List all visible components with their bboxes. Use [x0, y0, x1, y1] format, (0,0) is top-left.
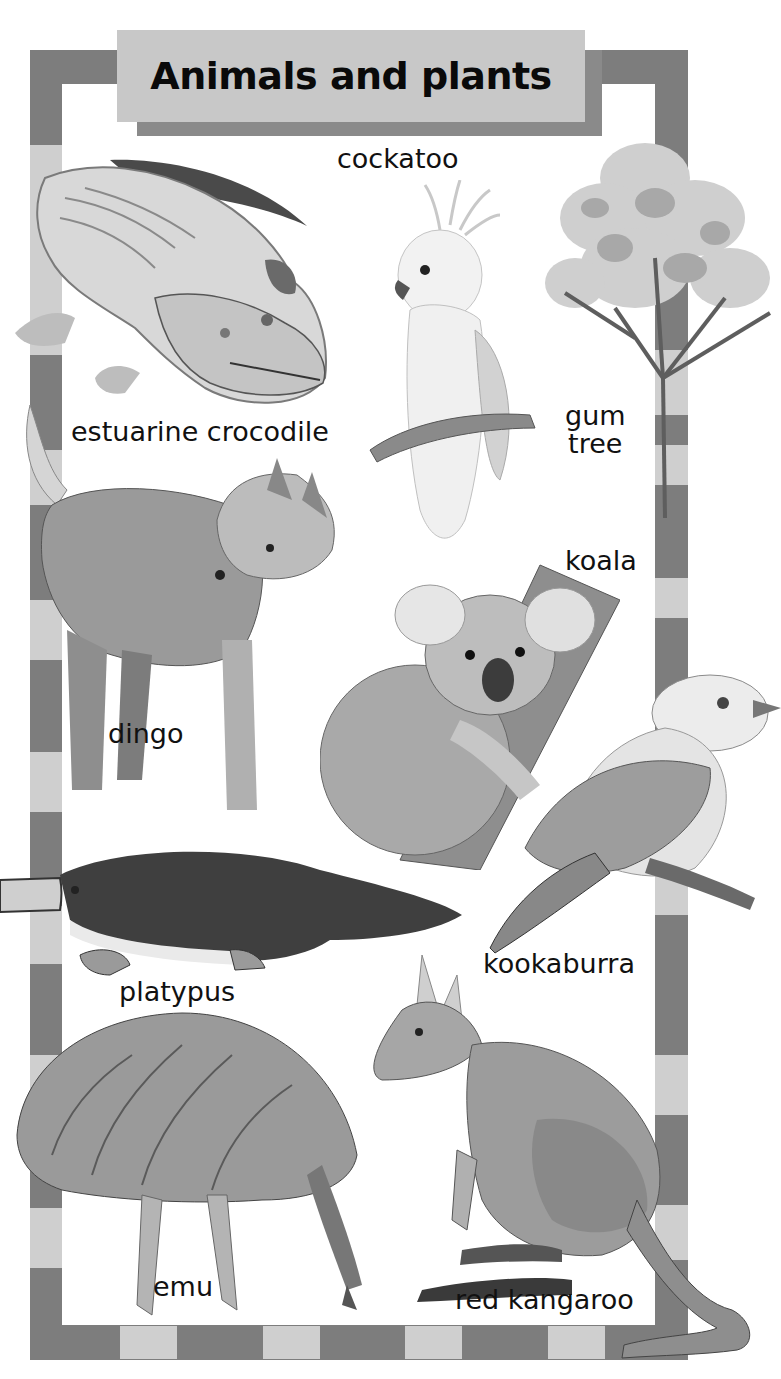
page-title: Animals and plants	[150, 54, 551, 98]
dingo-illustration	[12, 400, 347, 835]
title-banner: Animals and plants	[117, 30, 585, 122]
frame-bottom-light	[120, 1326, 177, 1359]
label-red-kangaroo: red kangaroo	[455, 1286, 634, 1314]
label-platypus: platypus	[119, 978, 235, 1006]
label-dingo: dingo	[108, 720, 183, 748]
frame-right-light	[655, 578, 688, 618]
label-gum-tree-line1: gum	[565, 402, 626, 430]
cockatoo-illustration	[365, 180, 545, 565]
label-kookaburra: kookaburra	[483, 950, 635, 978]
label-estuarine-crocodile: estuarine crocodile	[71, 418, 329, 446]
label-cockatoo: cockatoo	[337, 145, 459, 173]
frame-bottom-light	[263, 1326, 320, 1359]
label-emu: emu	[153, 1273, 213, 1301]
label-gum-tree: gum tree	[565, 402, 626, 459]
label-koala: koala	[565, 547, 637, 575]
label-gum-tree-line2: tree	[565, 430, 626, 458]
crocodile-illustration	[5, 148, 335, 413]
kookaburra-illustration	[485, 668, 781, 958]
gum-tree-illustration	[545, 128, 781, 528]
